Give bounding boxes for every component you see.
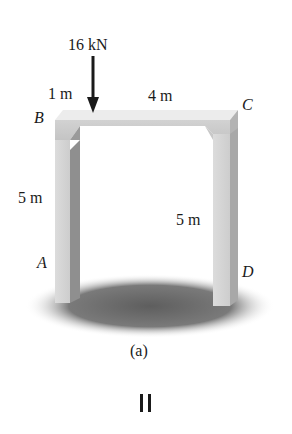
point-b-label: B	[34, 110, 44, 126]
load-arrow-icon	[87, 56, 99, 113]
figure-caption: (a)	[130, 343, 148, 359]
beam	[55, 110, 238, 140]
point-a-label: A	[37, 255, 47, 271]
right-column	[213, 120, 238, 306]
dimension-left-height: 5 m	[18, 190, 42, 206]
dimension-left-span: 1 m	[48, 86, 72, 102]
load-label: 16 kN	[68, 37, 108, 53]
left-column	[55, 120, 80, 303]
point-c-label: C	[242, 97, 253, 113]
frame-illustration	[0, 0, 292, 434]
point-d-label: D	[242, 264, 254, 280]
dimension-right-height: 5 m	[176, 212, 200, 228]
pause-icon[interactable]	[138, 394, 154, 412]
dimension-right-span: 4 m	[148, 88, 172, 104]
